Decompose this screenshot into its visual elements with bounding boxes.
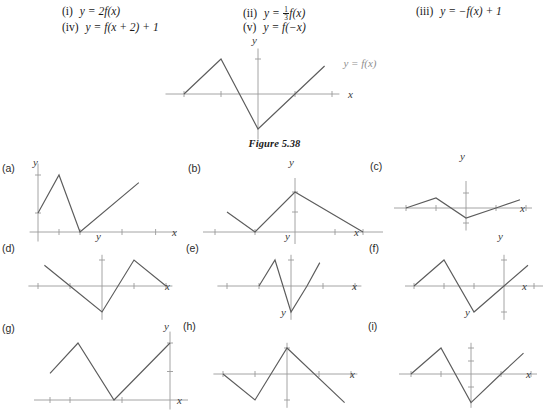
plot-panel-d: (d)yx (33, 252, 183, 318)
plot-panel-e: (e)yx (218, 252, 364, 318)
plot-panel-g: (g)yx (22, 334, 180, 406)
y-axis-label: y (459, 150, 465, 162)
function-curve-g (50, 343, 170, 400)
equation-body: y = 13f(x) (264, 7, 305, 19)
y-axis-label: y (251, 34, 257, 46)
equation-body: y = 2f(x) (80, 5, 120, 17)
equation-item: (iii)y = −f(x) + 1 (416, 6, 502, 18)
plot-panel-main: yxy = f(x) (196, 46, 396, 138)
equation-numeral: (ii) (243, 8, 257, 20)
x-axis-label: x (349, 368, 355, 380)
equation-numeral: (iv) (62, 22, 79, 34)
equation-numeral: (iii) (416, 6, 433, 18)
y-axis-label: y (32, 156, 38, 168)
x-axis-label: x (521, 280, 527, 292)
equation-body: y = f(x + 2) + 1 (86, 21, 159, 33)
equation-list: (i)y = 2f(x)(iv)y = f(x + 2) + 1(ii)y = … (0, 0, 549, 40)
panel-label-b: (b) (188, 162, 201, 174)
equation-item: (v)y = f(−x) (243, 22, 306, 34)
equation-body: y = −f(x) + 1 (440, 5, 502, 17)
x-axis-label: x (347, 88, 353, 100)
plot-panel-h: (h)yx (214, 334, 364, 406)
x-axis-label: x (351, 280, 357, 292)
y-axis-label: y (163, 320, 169, 332)
equation-item: (iv)y = f(x + 2) + 1 (62, 22, 159, 34)
fraction: 13 (283, 6, 289, 22)
x-axis-label: x (519, 202, 525, 214)
function-annotation: y = f(x) (342, 57, 376, 70)
function-curve-h (223, 348, 345, 403)
panel-label-c: (c) (370, 160, 382, 172)
function-curve-i (411, 348, 524, 403)
equation-item: (i)y = 2f(x) (62, 6, 120, 18)
equation-numeral: (i) (62, 6, 73, 18)
x-axis-label: x (176, 394, 182, 406)
figure-caption: Figure 5.38 (0, 138, 549, 149)
x-axis-label: x (525, 368, 531, 380)
y-axis-label: y (464, 306, 470, 318)
y-axis-label: y (95, 230, 101, 242)
y-axis-label: y (284, 230, 290, 242)
plot-panel-c: (c)yx (398, 170, 532, 232)
panel-label-e: (e) (186, 242, 199, 254)
x-axis-label: x (171, 226, 177, 238)
equation-numeral: (v) (243, 22, 256, 34)
panel-label-i: (i) (368, 320, 377, 332)
y-axis-label: y (288, 156, 294, 168)
panel-label-h: (h) (183, 320, 196, 332)
x-axis-label: x (353, 226, 359, 238)
equation-body: y = f(−x) (263, 21, 305, 33)
panel-label-g: (g) (2, 322, 15, 334)
panel-label-d: (d) (2, 242, 15, 254)
plot-panel-b: (b)yx (213, 170, 365, 238)
x-axis-label: x (164, 280, 170, 292)
panel-label-a: (a) (2, 162, 15, 174)
plot-panel-a: (a)yx (24, 170, 189, 238)
y-axis-label: y (280, 306, 286, 318)
y-axis-label: y (497, 230, 503, 242)
panel-label-f: (f) (369, 242, 379, 254)
plot-panel-i: (i)yx (398, 334, 538, 406)
function-curve-a (38, 175, 139, 232)
equation-item: (ii)y = 13f(x) (243, 6, 305, 22)
